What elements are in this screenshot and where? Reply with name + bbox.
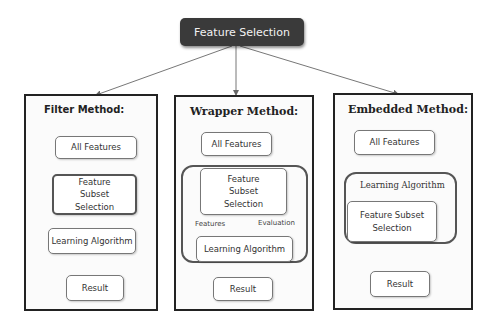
filter-node-result: Result [66, 275, 124, 301]
wrapper-node-result: Result [213, 277, 273, 301]
embedded-node-result: Result [370, 271, 430, 297]
wrapper-label-features: Features [195, 220, 225, 228]
root-label: Feature Selection [194, 26, 290, 39]
wrapper-label-evaluation: Evaluation [258, 219, 295, 227]
wrapper-node-learning-algorithm: Learning Algorithm [196, 236, 293, 262]
embedded-node-all-features: All Features [354, 130, 435, 155]
root-node-feature-selection: Feature Selection [180, 18, 304, 46]
wrapper-title: Wrapper Method: [190, 105, 298, 118]
embedded-group-label: Learning Algorithm [360, 180, 445, 190]
filter-title: Filter Method: [44, 104, 124, 115]
wrapper-node-feature-subset-selection: Feature Subset Selection [200, 168, 287, 215]
filter-node-all-features: All Features [55, 136, 137, 159]
filter-node-feature-subset-selection: Feature Subset Selection [52, 174, 137, 215]
filter-node-learning-algorithm: Learning Algorithm [48, 228, 136, 254]
embedded-node-feature-subset-selection: Feature Subset Selection [347, 201, 437, 242]
wrapper-node-all-features: All Features [201, 132, 272, 156]
embedded-title: Embedded Method: [348, 103, 468, 116]
